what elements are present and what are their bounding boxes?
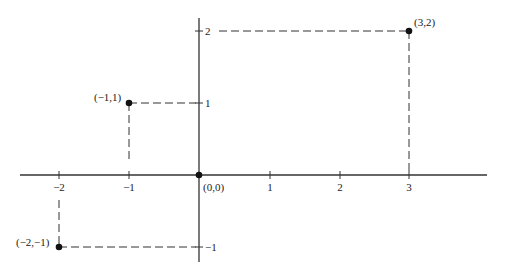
x-tick-label: −2 <box>53 181 65 193</box>
projection-lines <box>59 31 409 247</box>
point-origin <box>196 172 203 179</box>
point-neg2-neg1 <box>56 244 63 251</box>
x-tick-label: −1 <box>123 181 135 193</box>
point-label: (3,2) <box>414 16 435 29</box>
point-neg1-1 <box>126 100 133 107</box>
x-tick-label: 1 <box>267 181 273 193</box>
y-tick-label: 2 <box>205 25 211 37</box>
point-label: (−1,1) <box>94 91 122 104</box>
y-tick-label: −1 <box>205 241 217 253</box>
point-3-2 <box>406 28 413 35</box>
point-label: (−2,−1) <box>16 236 50 249</box>
x-tick-label: 3 <box>406 181 412 193</box>
point-label: (0,0) <box>203 181 224 194</box>
coordinate-plane: −2 −1 1 2 3 2 1 −1 (3,2) (−1,1) (0,0) (−… <box>0 0 505 273</box>
x-tick-label: 2 <box>337 181 343 193</box>
y-tick-label: 1 <box>205 97 211 109</box>
